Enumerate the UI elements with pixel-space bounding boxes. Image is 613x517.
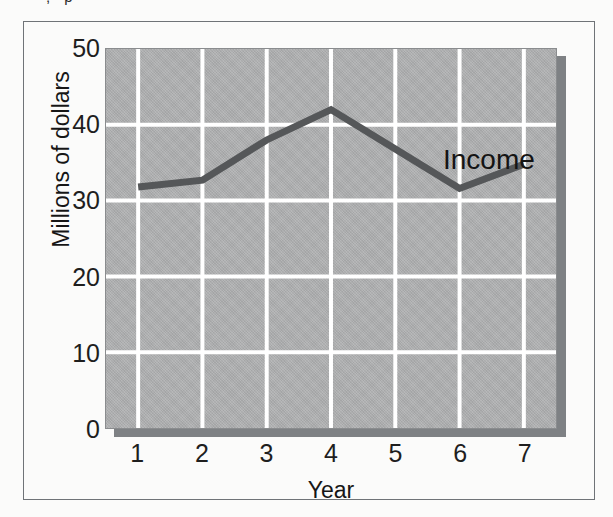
y-tick-label: 0 bbox=[38, 417, 100, 442]
x-tick-label: 6 bbox=[440, 441, 480, 466]
x-tick-label: 1 bbox=[117, 441, 157, 466]
x-tick-label: 7 bbox=[505, 441, 545, 466]
x-tick-label: 5 bbox=[376, 441, 416, 466]
series-annotation-income: Income bbox=[443, 144, 535, 176]
x-tick-label: 2 bbox=[182, 441, 222, 466]
x-axis-title: Year bbox=[105, 477, 557, 504]
y-axis-title: Millions of dollars bbox=[48, 0, 75, 325]
x-tick-label: 4 bbox=[311, 441, 351, 466]
plot-panel bbox=[105, 48, 557, 429]
line-chart: 01020304050 1234567 Millions of dollars … bbox=[24, 22, 594, 499]
plot-svg bbox=[106, 49, 556, 428]
y-tick-label: 10 bbox=[38, 341, 100, 366]
figure-frame: 01020304050 1234567 Millions of dollars … bbox=[23, 21, 595, 500]
x-tick-label: 3 bbox=[246, 441, 286, 466]
clipped-text-above: , p bbox=[0, 0, 613, 10]
